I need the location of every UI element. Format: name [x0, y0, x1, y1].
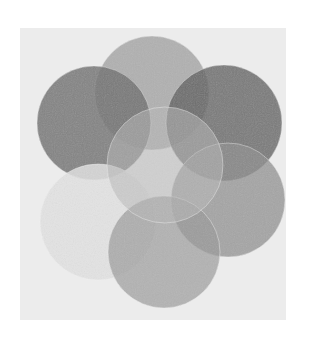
rosette-svg — [0, 0, 314, 338]
rosette-image: Grayscale rosette of seven overlapping c… — [0, 0, 314, 338]
circle-center — [107, 107, 223, 223]
